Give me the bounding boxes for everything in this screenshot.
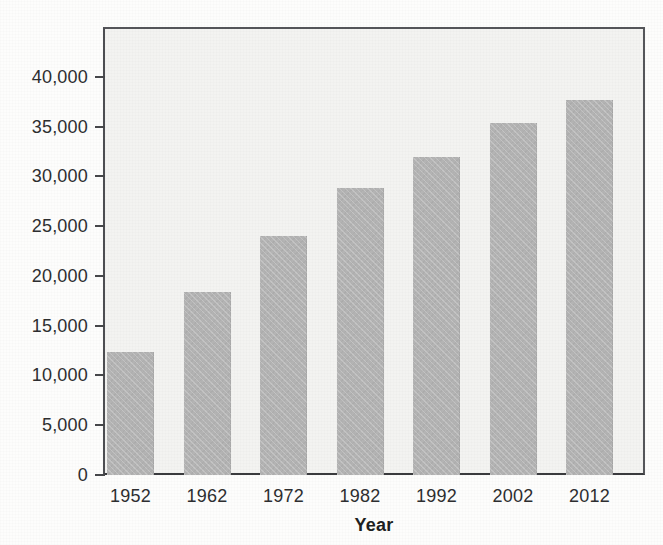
y-axis-tick-label: 40,000 [32, 68, 88, 86]
y-axis-tick-label: 5,000 [42, 416, 88, 434]
bar-chart-figure: 05,00010,00015,00020,00025,00030,00035,0… [0, 0, 663, 545]
bar-2002 [490, 123, 537, 475]
bar-1982 [337, 188, 384, 475]
bar-1962 [184, 292, 231, 475]
y-axis-tick-label: 15,000 [32, 317, 88, 335]
x-axis-tick-label: 2012 [545, 487, 635, 505]
bar-1992 [413, 157, 460, 475]
y-axis-tick-label: 0 [78, 466, 88, 484]
y-axis-tick-label: 10,000 [32, 366, 88, 384]
y-axis-tick-label: 20,000 [32, 267, 88, 285]
y-axis-tick-label: 30,000 [32, 167, 88, 185]
x-axis-title: Year [103, 516, 645, 534]
plot-area [103, 27, 645, 475]
bar-2012 [566, 100, 613, 475]
y-axis-tick-label: 25,000 [32, 217, 88, 235]
y-axis-tick-label: 35,000 [32, 118, 88, 136]
bar-1952 [107, 352, 154, 475]
bar-1972 [260, 236, 307, 475]
